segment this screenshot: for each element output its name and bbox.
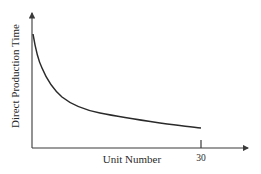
x-tick-label-30: 30: [196, 153, 206, 163]
x-axis-label: Unit Number: [103, 153, 162, 165]
learning-curve-line: [33, 34, 201, 128]
learning-curve-chart: Unit Number 30 Direct Production Time: [0, 0, 261, 174]
y-axis-label: Direct Production Time: [9, 24, 21, 128]
